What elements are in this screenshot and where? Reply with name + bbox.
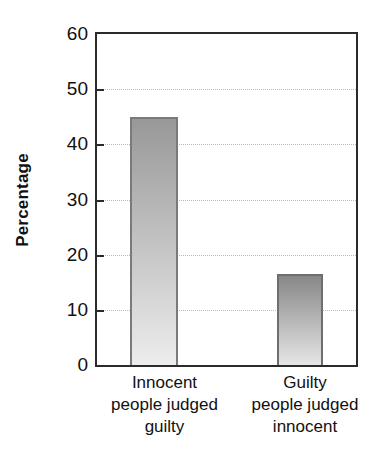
x-axis-category-labels: Innocentpeople judgedguiltyGuiltypeople … [95,372,386,462]
x-axis-category-label-line: innocent [215,416,386,438]
y-axis-title-text: Percentage [13,153,33,247]
y-axis-tick [95,200,104,202]
bar [130,117,178,365]
y-axis-tick-label: 10 [44,300,88,319]
y-axis-tick-label: 50 [44,79,88,98]
x-axis-category-label-line: Guilty [215,372,386,394]
y-axis-tick-label: 20 [44,245,88,264]
y-axis-tick-label: 60 [44,24,88,43]
bar [277,274,323,365]
y-axis-tick-label: 40 [44,134,88,153]
y-axis-tick [95,310,104,312]
plot-area [95,32,358,367]
y-axis-tick [95,255,104,257]
x-axis-category-label: Guiltypeople judgedinnocent [215,372,386,438]
y-axis-tick [95,144,104,146]
bar-chart: Percentage 6050403020100 Innocentpeople … [0,0,386,463]
y-axis-tick [95,89,104,91]
x-axis-category-label-line: people judged [215,394,386,416]
y-axis-tick-label: 30 [44,190,88,209]
y-axis-tick-labels: 6050403020100 [38,0,88,400]
gridline [97,89,356,90]
